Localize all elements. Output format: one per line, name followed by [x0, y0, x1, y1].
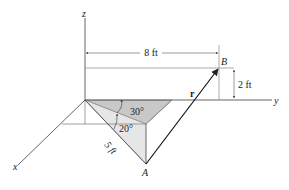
x-axis [18, 100, 85, 165]
z-axis-label: z [81, 8, 86, 19]
position-vector-diagram: 8 ft 2 ft r 30° 20° 5 ft z y x B A [0, 0, 289, 190]
dim-8ft-label: 8 ft [144, 47, 158, 58]
angle-30-label: 30° [130, 106, 144, 117]
angle-20-label: 20° [119, 123, 133, 134]
dim-2ft-label: 2 ft [238, 79, 252, 90]
point-B-label: B [221, 56, 227, 67]
y-axis-label: y [273, 95, 279, 106]
vector-r [146, 69, 218, 164]
x-axis-label: x [12, 161, 18, 172]
dim-5ft-label: 5 ft [102, 139, 119, 156]
vector-r-label: r [190, 88, 195, 99]
point-A-label: A [141, 167, 149, 178]
